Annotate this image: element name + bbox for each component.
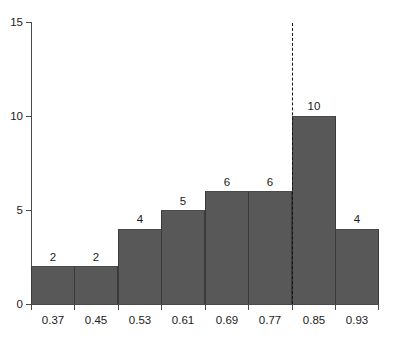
histogram-bar <box>161 210 205 304</box>
bar-value-label: 6 <box>205 177 249 189</box>
y-tick-label-0: 0 <box>17 299 23 311</box>
x-tick-label-0: 0.37 <box>31 315 75 327</box>
x-tick-label-4: 0.69 <box>205 315 249 327</box>
x-tick-mark-0 <box>31 304 32 310</box>
histogram-bar <box>335 229 379 304</box>
x-tick-label-7: 0.93 <box>335 315 379 327</box>
x-tick-mark-7 <box>335 304 336 310</box>
x-tick-mark-5 <box>248 304 249 310</box>
y-tick-mark-15 <box>26 22 32 23</box>
x-tick-label-5: 0.77 <box>248 315 292 327</box>
histogram-bar <box>74 266 118 304</box>
bar-value-label: 2 <box>74 252 118 264</box>
y-tick-label-5: 5 <box>17 205 23 217</box>
y-tick-label-10: 10 <box>10 111 23 123</box>
y-tick-mark-10 <box>26 116 32 117</box>
histogram-bar <box>292 116 336 304</box>
histogram-bar <box>31 266 75 304</box>
histogram-bar <box>118 229 162 304</box>
reference-line <box>292 23 293 304</box>
histogram-chart: 0 5 10 15 0.37 0.45 0.53 0.61 0.69 0.77 … <box>0 0 393 340</box>
bar-value-label: 4 <box>118 214 162 226</box>
x-tick-label-6: 0.85 <box>292 315 336 327</box>
bar-value-label: 5 <box>161 196 205 208</box>
bar-value-label: 10 <box>292 101 336 113</box>
bar-value-label: 4 <box>335 214 379 226</box>
bar-value-label: 2 <box>31 252 75 264</box>
x-tick-mark-6 <box>292 304 293 310</box>
x-tick-mark-4 <box>205 304 206 310</box>
y-tick-mark-5 <box>26 210 32 211</box>
x-tick-label-1: 0.45 <box>74 315 118 327</box>
histogram-bar <box>248 191 292 304</box>
x-tick-label-2: 0.53 <box>118 315 162 327</box>
x-tick-label-3: 0.61 <box>161 315 205 327</box>
bar-value-label: 6 <box>248 177 292 189</box>
y-tick-label-15: 15 <box>10 17 23 29</box>
x-tick-mark-1 <box>74 304 75 310</box>
x-tick-mark-8 <box>378 304 379 310</box>
x-tick-mark-3 <box>161 304 162 310</box>
histogram-bar <box>205 191 249 304</box>
x-tick-mark-2 <box>118 304 119 310</box>
